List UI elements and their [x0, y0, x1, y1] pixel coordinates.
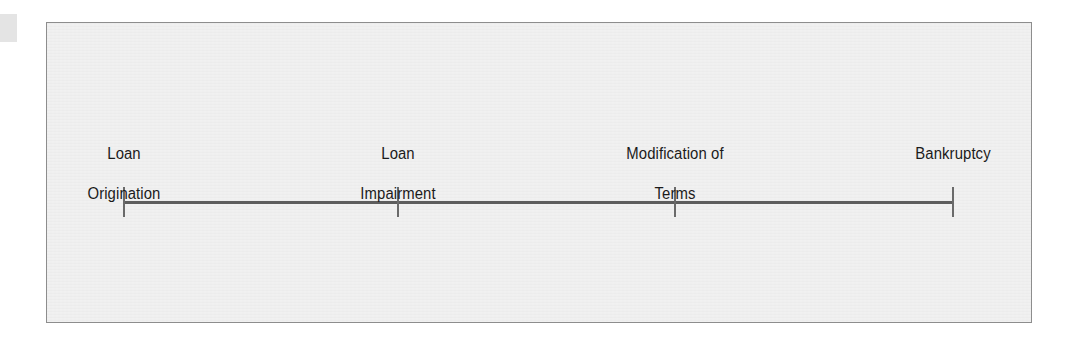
figure-frame	[46, 22, 1032, 323]
scan-artifact	[0, 14, 17, 42]
